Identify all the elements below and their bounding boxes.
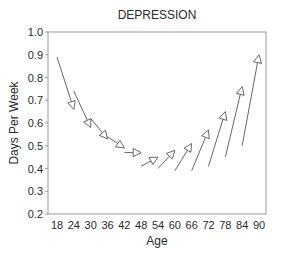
- arrow-segment: [74, 91, 91, 127]
- y-tick-label: 0.2: [28, 208, 43, 220]
- arrowhead-icon: [219, 112, 227, 121]
- arrowhead-icon: [254, 55, 262, 64]
- y-tick-label: 0.5: [28, 140, 43, 152]
- x-tick-label: 24: [68, 219, 80, 231]
- x-tick-label: 54: [152, 219, 164, 231]
- arrow-segment: [225, 87, 244, 158]
- y-tick-label: 0.9: [28, 49, 43, 61]
- arrowhead-icon: [149, 157, 158, 164]
- x-tick-label: 42: [118, 219, 130, 231]
- arrowhead-icon: [133, 149, 141, 157]
- x-tick-label: 90: [253, 219, 265, 231]
- arrow-segment: [57, 57, 75, 109]
- x-tick-label: 36: [101, 219, 113, 231]
- arrow-segment: [158, 150, 175, 168]
- x-tick-label: 84: [236, 219, 248, 231]
- x-tick-label: 72: [202, 219, 214, 231]
- y-tick-label: 1.0: [28, 26, 43, 38]
- arrow-segment: [175, 143, 192, 170]
- arrowhead-icon: [202, 130, 209, 139]
- x-tick-label: 78: [219, 219, 231, 231]
- chart-canvas: DEPRESSION 0.20.30.40.50.60.70.80.91.0 1…: [0, 0, 283, 263]
- x-tick-label: 30: [85, 219, 97, 231]
- x-tick-label: 18: [51, 219, 63, 231]
- x-axis-label: Age: [146, 234, 168, 248]
- arrowhead-icon: [115, 140, 124, 148]
- arrow-segment: [124, 149, 141, 157]
- arrow-segment: [192, 130, 209, 171]
- arrow-segment: [242, 55, 261, 146]
- y-tick-label: 0.3: [28, 185, 43, 197]
- y-tick-label: 0.6: [28, 117, 43, 129]
- x-tick-label: 48: [135, 219, 147, 231]
- x-axis-ticks: 18243036424854606672788490: [51, 219, 265, 231]
- arrowhead-icon: [84, 119, 91, 128]
- arrow-series: [57, 55, 261, 171]
- arrowhead-icon: [184, 143, 192, 152]
- y-axis-ticks: 0.20.30.40.50.60.70.80.91.0: [28, 26, 48, 220]
- arrow-segment: [108, 137, 125, 148]
- x-tick-label: 60: [169, 219, 181, 231]
- arrow-segment: [141, 157, 158, 166]
- chart-title: DEPRESSION: [118, 8, 197, 22]
- arrow-segment: [209, 112, 227, 167]
- arrowhead-icon: [99, 130, 107, 139]
- arrow-segment: [91, 118, 108, 138]
- x-tick-label: 66: [186, 219, 198, 231]
- y-tick-label: 0.7: [28, 94, 43, 106]
- y-tick-label: 0.8: [28, 72, 43, 84]
- y-axis-label: Days Per Week: [7, 80, 21, 164]
- y-tick-label: 0.4: [28, 163, 43, 175]
- arrowhead-icon: [68, 101, 76, 110]
- arrowhead-icon: [236, 87, 244, 96]
